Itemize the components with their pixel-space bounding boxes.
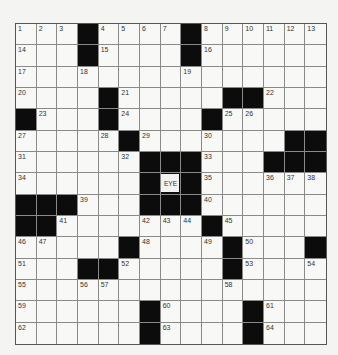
grid-cell[interactable]: 55 [16,280,37,301]
grid-cell[interactable] [305,323,326,344]
grid-cell[interactable] [285,301,306,322]
grid-cell[interactable] [161,67,182,88]
grid-cell[interactable] [57,259,78,280]
grid-cell[interactable]: 42 [140,216,161,237]
grid-cell[interactable]: 14 [16,45,37,66]
grid-cell[interactable]: 17 [16,67,37,88]
grid-cell[interactable] [37,152,58,173]
grid-cell[interactable]: 28 [99,131,120,152]
grid-cell[interactable] [181,237,202,258]
grid-cell[interactable]: 43 [161,216,182,237]
grid-cell[interactable] [243,131,264,152]
grid-cell[interactable] [57,131,78,152]
grid-cell[interactable] [264,280,285,301]
grid-cell[interactable] [119,216,140,237]
grid-cell[interactable]: 52 [119,259,140,280]
grid-cell[interactable] [57,88,78,109]
grid-cell[interactable] [119,323,140,344]
grid-cell[interactable]: 1 [16,24,37,45]
grid-cell[interactable] [78,131,99,152]
grid-cell[interactable] [305,216,326,237]
grid-cell[interactable] [140,280,161,301]
grid-cell[interactable] [161,45,182,66]
grid-cell[interactable] [78,173,99,194]
grid-cell[interactable] [181,131,202,152]
grid-cell[interactable]: 51 [16,259,37,280]
grid-cell[interactable] [264,237,285,258]
grid-cell[interactable]: 49 [202,237,223,258]
grid-cell[interactable] [99,173,120,194]
grid-cell[interactable] [119,280,140,301]
grid-cell[interactable]: 45 [223,216,244,237]
grid-cell[interactable] [37,45,58,66]
grid-cell[interactable]: 46 [16,237,37,258]
grid-cell[interactable] [243,67,264,88]
grid-cell[interactable] [181,280,202,301]
grid-cell[interactable]: 12 [285,24,306,45]
grid-cell[interactable] [37,131,58,152]
grid-cell[interactable]: 35 [202,173,223,194]
grid-cell[interactable] [37,301,58,322]
grid-cell[interactable] [57,45,78,66]
grid-cell[interactable] [202,280,223,301]
grid-cell[interactable] [305,67,326,88]
grid-cell[interactable] [243,152,264,173]
grid-cell[interactable]: 19 [181,67,202,88]
grid-cell[interactable]: 57 [99,280,120,301]
grid-cell[interactable] [264,67,285,88]
grid-cell[interactable] [285,237,306,258]
grid-cell[interactable] [37,259,58,280]
grid-cell[interactable] [161,109,182,130]
grid-cell[interactable] [57,301,78,322]
grid-cell[interactable]: 9 [223,24,244,45]
grid-cell[interactable]: 6 [140,24,161,45]
grid-cell[interactable] [305,301,326,322]
grid-cell[interactable]: 53 [243,259,264,280]
grid-cell[interactable]: 5 [119,24,140,45]
grid-cell[interactable] [264,216,285,237]
grid-cell[interactable]: 8 [202,24,223,45]
grid-cell[interactable] [78,152,99,173]
grid-cell[interactable] [140,109,161,130]
grid-cell[interactable] [78,237,99,258]
grid-cell[interactable]: 47 [37,237,58,258]
grid-cell[interactable]: 44 [181,216,202,237]
grid-cell[interactable] [223,301,244,322]
grid-cell[interactable] [119,67,140,88]
grid-cell[interactable] [223,173,244,194]
grid-cell[interactable] [140,45,161,66]
grid-cell[interactable] [37,173,58,194]
grid-cell[interactable] [161,237,182,258]
grid-cell[interactable]: 20 [16,88,37,109]
grid-cell[interactable] [202,301,223,322]
grid-cell[interactable]: 38 [305,173,326,194]
grid-cell[interactable] [285,88,306,109]
grid-cell[interactable] [99,67,120,88]
grid-cell[interactable] [285,259,306,280]
grid-cell[interactable]: 27 [16,131,37,152]
grid-cell[interactable]: 58 [223,280,244,301]
grid-cell[interactable] [99,216,120,237]
grid-cell[interactable]: 13 [305,24,326,45]
grid-cell[interactable]: 41 [57,216,78,237]
grid-cell[interactable] [119,195,140,216]
grid-cell[interactable] [264,109,285,130]
grid-cell[interactable] [243,173,264,194]
grid-cell[interactable]: 39 [78,195,99,216]
grid-cell[interactable] [181,301,202,322]
grid-cell[interactable]: 11 [264,24,285,45]
grid-cell[interactable] [99,195,120,216]
grid-cell[interactable]: 64 [264,323,285,344]
grid-cell[interactable]: 56 [78,280,99,301]
grid-cell[interactable] [305,195,326,216]
grid-cell[interactable]: 60 [161,301,182,322]
grid-cell[interactable]: 26 [243,109,264,130]
grid-cell[interactable] [181,109,202,130]
grid-cell[interactable]: 54 [305,259,326,280]
grid-cell[interactable] [57,280,78,301]
grid-cell[interactable] [119,45,140,66]
grid-cell[interactable]: 16 [202,45,223,66]
grid-cell[interactable] [181,259,202,280]
grid-cell[interactable] [37,280,58,301]
grid-cell[interactable] [305,45,326,66]
